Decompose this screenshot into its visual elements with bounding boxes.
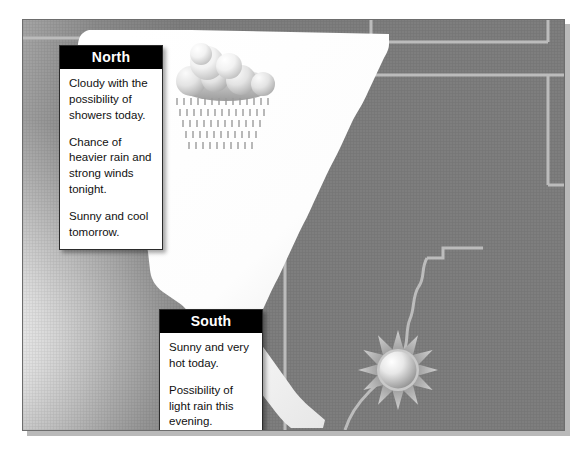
rain-streaks (177, 98, 268, 149)
weather-map-page: North Cloudy with the possibility of sho… (0, 0, 584, 458)
cloud-with-rain-icon (171, 42, 281, 157)
arizona-north-boundary (427, 248, 483, 258)
callout-south-title: South (160, 310, 262, 333)
map-frame: North Cloudy with the possibility of sho… (22, 19, 565, 431)
callout-north-paragraph-1: Cloudy with the possibility of showers t… (69, 76, 153, 124)
cloud-shape (176, 43, 275, 101)
callout-south-body: Sunny and very hot today. Possibility of… (160, 333, 262, 431)
sun-disc (380, 352, 417, 389)
callout-north[interactable]: North Cloudy with the possibility of sho… (59, 45, 163, 250)
sun-icon (355, 327, 441, 413)
callout-north-body: Cloudy with the possibility of showers t… (60, 69, 162, 249)
callout-south-paragraph-1: Sunny and very hot today. (169, 340, 253, 372)
callout-south[interactable]: South Sunny and very hot today. Possibil… (159, 309, 263, 431)
callout-north-paragraph-3: Sunny and cool tomorrow. (69, 209, 153, 241)
callout-north-paragraph-2: Chance of heavier rain and strong winds … (69, 135, 153, 198)
callout-north-title: North (60, 46, 162, 69)
callout-south-paragraph-2: Possibility of light rain this evening. (169, 383, 253, 431)
